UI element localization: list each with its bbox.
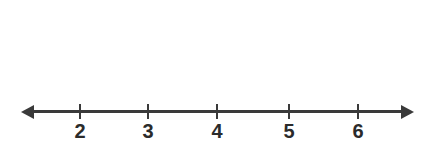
dot-plot-figure: 23456 [0,0,428,143]
axis-tick-label-3: 3 [133,121,163,141]
axis-tick-5 [288,104,290,119]
axis-tick-label-5: 5 [274,121,304,141]
axis-tick-label-4: 4 [202,121,232,141]
axis-tick-label-2: 2 [65,121,95,141]
axis-tick-label-6: 6 [343,121,373,141]
axis-arrow-right-icon [401,105,414,119]
axis-tick-6 [357,104,359,119]
axis-tick-3 [147,104,149,119]
axis-tick-4 [216,104,218,119]
axis-tick-2 [79,104,81,119]
axis-arrow-left-icon [21,105,34,119]
